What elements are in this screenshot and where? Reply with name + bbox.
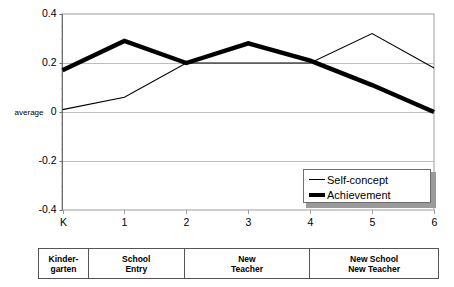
- phase-cell: SchoolEntry: [89, 249, 185, 278]
- x-tick-label: 3: [237, 216, 261, 228]
- legend-item-label: Self-concept: [327, 174, 388, 186]
- x-tick-label: K: [52, 216, 76, 228]
- phase-cell-line2: Teacher: [231, 264, 263, 274]
- legend-line-swatch-icon: [309, 190, 325, 200]
- x-tick-label: 2: [175, 216, 199, 228]
- phase-cell-line1: New: [238, 254, 255, 264]
- figure-root: 0.40.20-0.2-0.4 average K123456 Self-con…: [0, 0, 454, 287]
- average-annotation: average: [15, 108, 44, 117]
- y-tick-label: 0.2: [42, 57, 57, 68]
- phase-cell-line2: New Teacher: [348, 264, 400, 274]
- y-tick-label: -0.2: [38, 155, 56, 166]
- x-tick-label: 6: [423, 216, 447, 228]
- phase-cell-line1: Kinder-: [49, 254, 79, 264]
- legend-item[interactable]: Self-concept: [304, 172, 430, 187]
- y-tick-label: 0.4: [42, 8, 57, 19]
- x-tick-label: 1: [113, 216, 137, 228]
- phase-cell-line1: School: [122, 254, 150, 264]
- y-tick-label: 0: [51, 106, 57, 117]
- x-axis-ticks: [64, 210, 435, 214]
- phase-cell-line2: Entry: [125, 264, 147, 274]
- legend-item-label: Achievement: [327, 189, 391, 201]
- legend-item[interactable]: Achievement: [304, 187, 430, 202]
- legend-line-swatch-icon: [309, 175, 325, 185]
- phase-cell: New SchoolNew Teacher: [310, 249, 438, 278]
- y-tick-label: -0.4: [38, 204, 56, 215]
- phase-cell: NewTeacher: [185, 249, 311, 278]
- x-tick-label: 4: [299, 216, 323, 228]
- phase-cell-line2: garten: [50, 264, 76, 274]
- phase-cell: Kinder-garten: [39, 249, 89, 278]
- chart-legend[interactable]: Self-conceptAchievement: [303, 169, 431, 203]
- phase-cell-line1: New School: [350, 254, 398, 264]
- phase-annotation-table: Kinder-gartenSchoolEntryNewTeacherNew Sc…: [38, 248, 439, 279]
- x-tick-label: 5: [361, 216, 385, 228]
- line-chart: 0.40.20-0.2-0.4 average K123456 Self-con…: [0, 0, 454, 232]
